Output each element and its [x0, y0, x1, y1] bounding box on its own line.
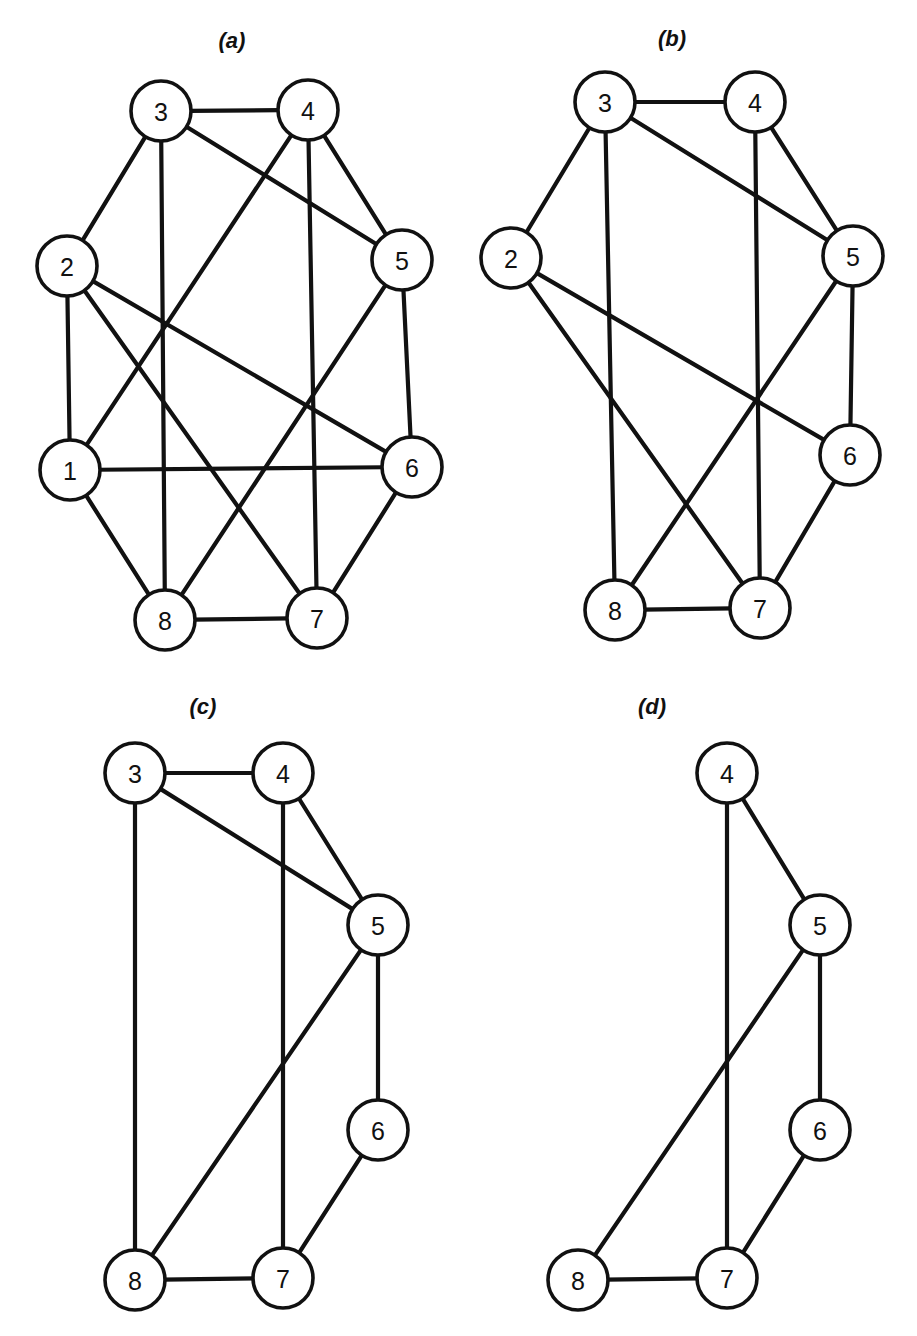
node-label-5: 5 [371, 912, 385, 940]
node-4[interactable]: 4 [253, 743, 313, 803]
edge-6-7 [742, 1154, 805, 1255]
edge-8-7 [643, 608, 732, 609]
node-4[interactable]: 4 [278, 80, 338, 140]
edge-group-d [594, 797, 820, 1280]
node-label-6: 6 [371, 1117, 385, 1145]
node-8[interactable]: 8 [135, 590, 195, 650]
edge-4-5 [323, 134, 387, 237]
graph-figure: 12345678(a)2345678(b)345678(c)45678(d) [0, 0, 917, 1336]
edge-group-b [525, 102, 852, 610]
node-label-2: 2 [60, 253, 74, 281]
graph-panel-d: 45678(d) [548, 694, 850, 1310]
graph-svg-canvas: 12345678(a)2345678(b)345678(c)45678(d) [0, 0, 917, 1336]
node-label-8: 8 [608, 597, 622, 625]
node-label-4: 4 [748, 89, 762, 117]
node-label-6: 6 [405, 454, 419, 482]
node-label-3: 3 [128, 760, 142, 788]
edge-3-8 [606, 130, 615, 582]
node-8[interactable]: 8 [105, 1250, 165, 1310]
node-label-8: 8 [158, 607, 172, 635]
panel-caption-a: (a) [219, 28, 246, 53]
edge-5-8 [594, 948, 804, 1257]
node-label-1: 1 [63, 457, 77, 485]
node-label-5: 5 [813, 912, 827, 940]
node-label-7: 7 [753, 595, 767, 623]
panel-caption-d: (d) [638, 694, 666, 719]
edge-8-7 [606, 1278, 699, 1279]
node-4[interactable]: 4 [725, 72, 785, 132]
node-label-7: 7 [276, 1265, 290, 1293]
edge-3-5 [159, 788, 355, 910]
node-7[interactable]: 7 [697, 1248, 757, 1308]
node-5[interactable]: 5 [372, 230, 432, 290]
edge-5-8 [151, 948, 362, 1257]
edge-4-5 [742, 797, 806, 901]
edge-6-7 [774, 479, 836, 584]
node-3[interactable]: 3 [105, 743, 165, 803]
node-7[interactable]: 7 [287, 588, 347, 648]
node-label-7: 7 [720, 1265, 734, 1293]
edge-3-5 [629, 117, 829, 241]
node-2[interactable]: 2 [481, 228, 541, 288]
panel-caption-b: (b) [658, 26, 686, 51]
edge-group-c [135, 773, 378, 1280]
node-2[interactable]: 2 [37, 236, 97, 296]
node-1[interactable]: 1 [40, 440, 100, 500]
node-3[interactable]: 3 [131, 81, 191, 141]
node-3[interactable]: 3 [575, 72, 635, 132]
node-label-4: 4 [301, 97, 315, 125]
edge-1-8 [85, 494, 150, 597]
graph-panel-b: 2345678(b) [481, 26, 883, 640]
node-6[interactable]: 6 [382, 437, 442, 497]
node-label-5: 5 [846, 243, 860, 271]
edge-5-6 [850, 284, 852, 427]
edge-3-4 [189, 110, 280, 111]
edge-3-5 [185, 126, 378, 246]
node-label-3: 3 [154, 98, 168, 126]
edge-2-1 [67, 294, 69, 442]
node-6[interactable]: 6 [790, 1100, 850, 1160]
node-label-6: 6 [843, 442, 857, 470]
node-8[interactable]: 8 [585, 580, 645, 640]
node-8[interactable]: 8 [548, 1250, 608, 1310]
edge-6-7 [298, 1154, 363, 1255]
panel-caption-c: (c) [190, 694, 217, 719]
node-label-2: 2 [504, 245, 518, 273]
node-7[interactable]: 7 [730, 578, 790, 638]
edge-2-7 [527, 281, 744, 585]
node-6[interactable]: 6 [820, 425, 880, 485]
edge-6-7 [332, 491, 397, 595]
node-5[interactable]: 5 [348, 895, 408, 955]
edge-2-6 [91, 280, 388, 453]
edge-group-a [67, 110, 410, 619]
edge-3-2 [82, 135, 147, 242]
edge-1-6 [98, 467, 384, 470]
edge-5-8 [180, 283, 386, 596]
node-label-7: 7 [310, 605, 324, 633]
node-5[interactable]: 5 [823, 226, 883, 286]
edge-8-7 [193, 618, 289, 619]
edge-5-8 [631, 279, 838, 587]
edge-4-5 [298, 797, 363, 902]
node-label-8: 8 [571, 1267, 585, 1295]
edge-2-7 [83, 289, 301, 595]
graph-panel-c: 345678(c) [105, 694, 408, 1310]
node-label-3: 3 [598, 89, 612, 117]
node-7[interactable]: 7 [253, 1248, 313, 1308]
edge-4-5 [770, 126, 838, 233]
edge-8-7 [163, 1278, 255, 1279]
node-label-6: 6 [813, 1117, 827, 1145]
node-label-8: 8 [128, 1267, 142, 1295]
edge-3-8 [161, 139, 165, 592]
node-5[interactable]: 5 [790, 895, 850, 955]
edge-5-6 [403, 288, 410, 439]
node-label-5: 5 [395, 247, 409, 275]
node-label-4: 4 [276, 760, 290, 788]
node-label-4: 4 [720, 760, 734, 788]
node-6[interactable]: 6 [348, 1100, 408, 1160]
graph-panel-a: 12345678(a) [37, 28, 442, 650]
edge-3-2 [525, 126, 590, 234]
node-4[interactable]: 4 [697, 743, 757, 803]
